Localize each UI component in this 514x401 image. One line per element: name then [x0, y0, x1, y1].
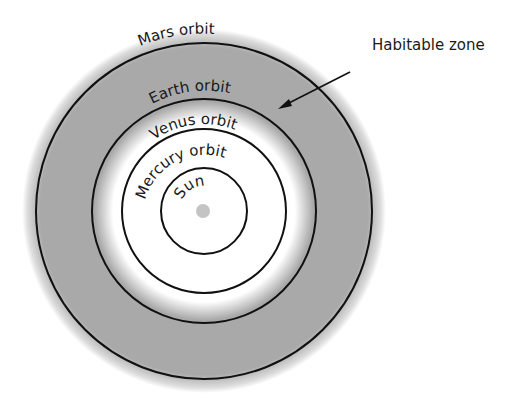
- diagram-canvas: Mars orbit Earth orbit Venus orbit Mercu…: [0, 0, 514, 401]
- habitable-zone-diagram: Mars orbit Earth orbit Venus orbit Mercu…: [0, 0, 514, 401]
- habitable-zone-label: Habitable zone: [372, 36, 485, 54]
- sun-icon: [196, 204, 210, 218]
